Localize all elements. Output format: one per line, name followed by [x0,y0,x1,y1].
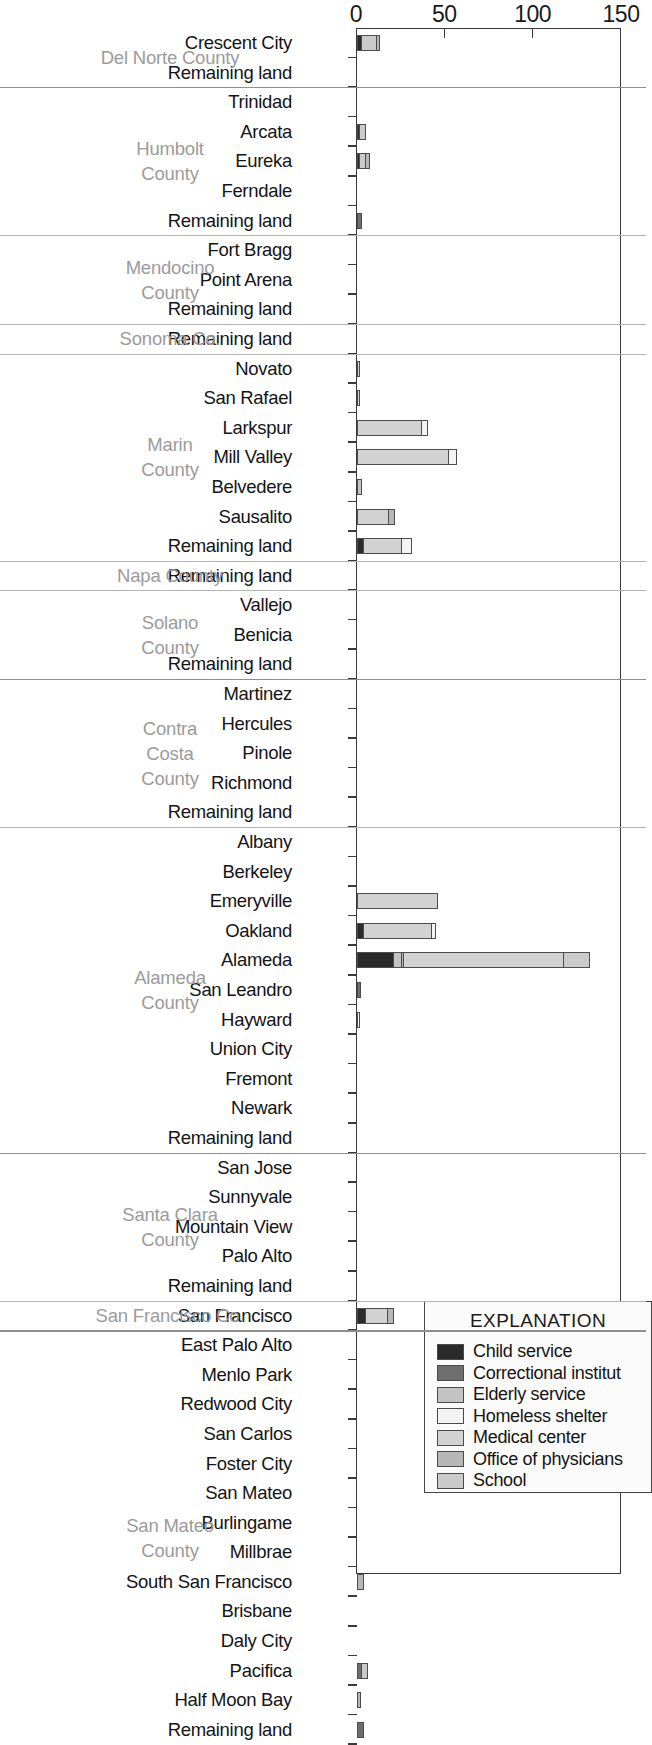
legend-title: EXPLANATION [425,1310,651,1332]
county-label-line: County [0,161,340,186]
bar-stack [357,982,361,998]
county-label-line: County [0,457,340,482]
chart-row: Half Moon Bay [0,1685,646,1715]
county-label-line: County [0,1538,340,1563]
bar-stack [357,35,380,51]
legend-swatch [437,1473,464,1489]
county-label-del-norte-county: Del Norte County [0,45,340,70]
row-label-east-palo-alto: East Palo Alto [181,1330,292,1360]
county-label-solano-county: SolanoCounty [0,610,340,660]
bar-stack [357,124,366,140]
legend-swatch [437,1387,464,1403]
row-label-san-carlos: San Carlos [203,1419,292,1449]
bar-stack [357,1663,368,1679]
row-label-san-mateo: San Mateo [205,1478,292,1508]
county-label-line: County [0,635,340,660]
chart-row: Remaining land [0,1715,646,1745]
legend-swatch [437,1344,464,1360]
bar-segment [387,1308,394,1324]
county-separator-line [0,235,646,236]
legend-item: Correctional institut [437,1363,651,1385]
chart-row: Trinidad [0,87,646,117]
legend-swatch [437,1430,464,1446]
county-label-line: County [0,280,340,305]
bar-stack [357,952,590,968]
bar-segment [421,420,428,436]
chart-row: Sausalito [0,502,646,532]
legend-label: School [473,1470,526,1491]
bar-segment [357,893,438,909]
chart-row: Oakland [0,916,646,946]
chart-row: Remaining land [0,797,646,827]
chart-row: San Rafael [0,383,646,413]
chart-row: Albany [0,827,646,857]
bar-segment [431,923,436,939]
bar-segment [448,449,457,465]
legend-label: Elderly service [473,1384,586,1405]
bar-segment [361,1663,368,1679]
county-label-line: County [0,990,340,1015]
chart-row: South San Francisco [0,1567,646,1597]
chart-row: Remaining land [0,206,646,236]
x-tick-label-100: 100 [514,0,551,28]
bar-segment [357,1692,361,1708]
county-label-marin-county: MarinCounty [0,432,340,482]
row-label-half-moon-bay: Half Moon Bay [175,1685,292,1715]
chart-row: Berkeley [0,857,646,887]
bar-segment [357,361,360,377]
county-label-line: Marin [0,432,340,457]
row-label-san-rafael: San Rafael [203,383,292,413]
county-label-san-francisco-co-: San Francisco Co. [0,1303,340,1328]
legend-label: Child service [473,1341,572,1362]
bar-stack [357,1574,364,1590]
bar-stack [357,479,362,495]
county-label-contra-costa-county: ContraCostaCounty [0,716,340,791]
county-separator-line [0,679,646,680]
legend-label: Office of physicians [473,1449,623,1470]
county-label-line: Humbolt [0,136,340,161]
bar-stack [357,509,395,525]
county-separator-line [0,827,646,828]
county-label-line: Mendocino [0,255,340,280]
bar-stack [357,1308,394,1324]
row-label-albany: Albany [237,827,292,857]
bar-segment [388,509,395,525]
bar-stack [357,449,457,465]
county-label-line: Contra [0,716,340,741]
bar-stack [357,153,370,169]
row-label-redwood-city: Redwood City [180,1389,292,1419]
bar-stack [357,361,360,377]
bar-segment [357,449,449,465]
bar-segment [357,1722,364,1738]
bar-segment [361,35,377,51]
chart-row: Emeryville [0,886,646,916]
legend-swatch [437,1408,464,1424]
chart-row: San Jose [0,1153,646,1183]
county-label-san-mateo-county: San MateoCounty [0,1513,340,1563]
x-tick-label-150: 150 [603,0,640,28]
legend-items: Child serviceCorrectional institutElderl… [437,1341,651,1492]
bar-segment [359,124,366,140]
chart-row: Martinez [0,679,646,709]
chart-row: Remaining land [0,1271,646,1301]
bar-stack [357,1722,364,1738]
row-label-novato: Novato [235,354,292,384]
county-label-line: County [0,766,340,791]
county-separator-line [0,590,646,591]
county-separator-line [0,354,646,355]
chart-row: Newark [0,1093,646,1123]
county-separator-line [0,1153,646,1154]
legend-item: School [437,1470,651,1492]
county-label-line: Del Norte County [0,45,340,70]
row-label-san-jose: San Jose [217,1153,292,1183]
row-label-berkeley: Berkeley [222,857,292,887]
bar-segment [365,1308,388,1324]
county-label-alameda-county: AlamedaCounty [0,965,340,1015]
bar-segment [403,952,564,968]
county-label-line: Sonoma Co. [0,326,340,351]
bar-stack [357,390,360,406]
bar-stack [357,1012,360,1028]
bar-stack [357,213,362,229]
chart-row: Pacifica [0,1656,646,1686]
